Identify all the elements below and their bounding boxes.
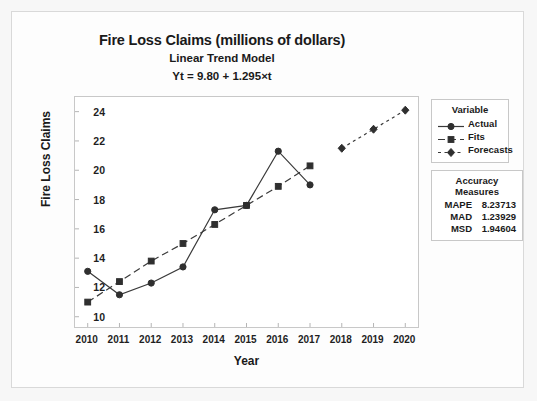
accuracy-metric-value: 8.23713 — [472, 199, 518, 210]
accuracy-metric-value: 1.23929 — [472, 211, 518, 222]
chart-card: Fire Loss Claims (millions of dollars) L… — [11, 11, 524, 388]
legend-key-square-icon — [437, 131, 465, 142]
series-fits — [85, 163, 313, 305]
chart-subtitle: Linear Trend Model — [12, 52, 432, 64]
legend-label: Actual — [468, 118, 497, 129]
chart-title: Fire Loss Claims (millions of dollars) — [12, 32, 432, 48]
legend: Variable ActualFitsForecasts — [431, 99, 509, 163]
accuracy-metric-name: MSD — [436, 223, 472, 234]
legend-items: ActualFitsForecasts — [437, 118, 503, 155]
accuracy-row: MAPE8.23713 — [436, 199, 518, 210]
legend-label: Forecasts — [468, 144, 513, 155]
accuracy-metric-name: MAD — [436, 211, 472, 222]
y-tick-label: 16 — [75, 223, 105, 235]
accuracy-metric-value: 1.94604 — [472, 223, 518, 234]
legend-item-fits[interactable]: Fits — [437, 131, 503, 142]
accuracy-measures-title: Accuracy Measures — [436, 175, 518, 197]
y-tick-label: 22 — [75, 135, 105, 147]
y-tick-label: 20 — [75, 164, 105, 176]
legend-key-diamond-icon — [437, 144, 465, 155]
legend-title: Variable — [437, 104, 503, 115]
legend-item-actual[interactable]: Actual — [437, 118, 503, 129]
series-actual — [85, 148, 314, 298]
plot-svg — [75, 97, 418, 327]
x-axis-title: Year — [74, 354, 419, 368]
y-axis-title: Fire Loss Claims — [39, 59, 53, 259]
x-tick-label: 2020 — [384, 334, 424, 345]
accuracy-measures-box: Accuracy Measures MAPE8.23713MAD1.23929M… — [431, 170, 523, 241]
accuracy-metric-name: MAPE — [436, 199, 472, 210]
accuracy-measures-rows: MAPE8.23713MAD1.23929MSD1.94604 — [436, 199, 518, 234]
series-forecasts — [338, 106, 409, 152]
accuracy-row: MAD1.23929 — [436, 211, 518, 222]
legend-label: Fits — [468, 131, 485, 142]
y-tick-label: 24 — [75, 106, 105, 118]
y-tick-label: 12 — [75, 281, 105, 293]
y-tick-label: 18 — [75, 194, 105, 206]
y-tick-label: 14 — [75, 252, 105, 264]
accuracy-row: MSD1.94604 — [436, 223, 518, 234]
legend-key-circle-icon — [437, 118, 465, 129]
legend-item-forecasts[interactable]: Forecasts — [437, 144, 503, 155]
chart-equation: Yt = 9.80 + 1.295×t — [12, 70, 432, 82]
y-tick-label: 10 — [75, 311, 105, 323]
plot-area — [74, 96, 419, 328]
